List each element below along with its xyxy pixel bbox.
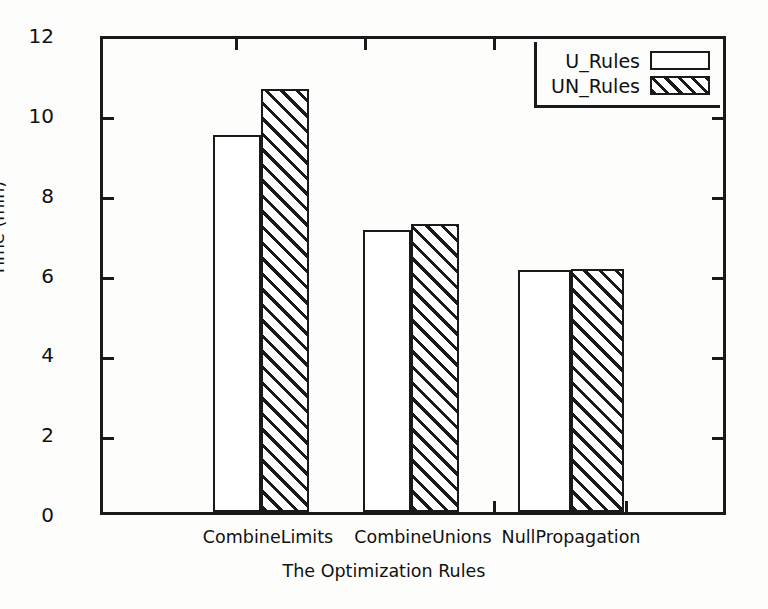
- legend-label-un-rules: UN_Rules: [551, 75, 640, 97]
- bar-un-rules-nullpropagation: [571, 269, 624, 512]
- y-tick-left-8: [103, 197, 114, 200]
- legend: U_Rules UN_Rules: [534, 42, 720, 108]
- x-tick-label-combineunions: CombineUnions: [354, 527, 491, 547]
- y-tick-label-6: 6: [41, 266, 54, 286]
- y-tick-left-10: [103, 117, 114, 120]
- x-tick-top-1: [235, 39, 238, 50]
- y-tick-right-6: [712, 277, 723, 280]
- empty-rect-swatch-icon: [650, 51, 710, 70]
- bar-un-rules-combineunions: [411, 224, 459, 512]
- x-tick-top-2: [364, 39, 367, 50]
- y-tick-label-0: 0: [41, 505, 54, 525]
- plot-area-frame: U_Rules UN_Rules: [100, 36, 726, 515]
- bar-u-rules-combinelimits: [213, 135, 261, 512]
- bar-chart-figure: 12 10 8 6 4 2 0 Time (min) The Optimizat…: [0, 0, 768, 609]
- y-tick-label-2: 2: [41, 425, 54, 445]
- legend-entry-u-rules: U_Rules: [551, 48, 710, 73]
- x-tick-label-combinelimits: CombineLimits: [203, 527, 333, 547]
- legend-label-u-rules: U_Rules: [565, 50, 640, 72]
- legend-entry-un-rules: UN_Rules: [551, 73, 710, 98]
- y-tick-right-2: [712, 437, 723, 440]
- y-tick-label-12: 12: [29, 26, 54, 46]
- x-tick-label-nullpropagation: NullPropagation: [502, 527, 641, 547]
- y-tick-left-2: [103, 437, 114, 440]
- y-tick-label-4: 4: [41, 345, 54, 365]
- y-tick-right-4: [712, 357, 723, 360]
- x-tick-bottom-4: [625, 501, 628, 512]
- y-tick-left-4: [103, 357, 114, 360]
- x-tick-top-3: [493, 39, 496, 50]
- page-background: 12 10 8 6 4 2 0 Time (min) The Optimizat…: [0, 0, 768, 609]
- bar-un-rules-combinelimits: [261, 89, 309, 512]
- y-tick-right-8: [712, 197, 723, 200]
- y-tick-label-10: 10: [29, 106, 54, 126]
- x-tick-bottom-3: [493, 501, 496, 512]
- x-axis-title: The Optimization Rules: [0, 561, 768, 581]
- hatched-rect-swatch-icon: [650, 76, 710, 95]
- y-tick-left-6: [103, 277, 114, 280]
- y-tick-label-8: 8: [41, 186, 54, 206]
- bar-u-rules-combineunions: [363, 230, 411, 512]
- y-axis-title: Time (min): [0, 181, 8, 276]
- y-tick-right-10: [712, 117, 723, 120]
- bar-u-rules-nullpropagation: [518, 270, 571, 512]
